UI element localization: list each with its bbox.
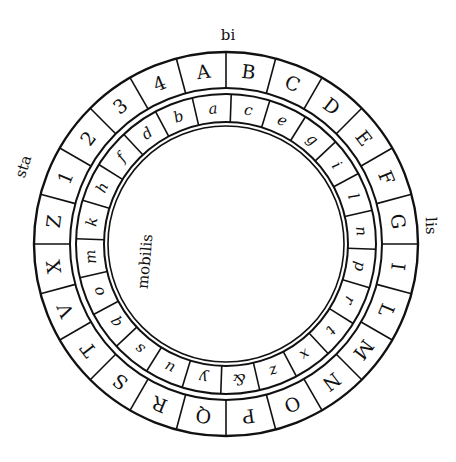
inner-divider [99, 165, 123, 180]
outer-divider [304, 78, 322, 109]
outer-cell-7: I [387, 262, 410, 272]
inner-cell-11: z [267, 361, 282, 381]
inner-cell-7: p [350, 260, 369, 273]
inner-cell-20: h [92, 179, 112, 195]
inner-cell-4: i [328, 158, 346, 173]
outer-divider [377, 194, 412, 203]
outer-cell-8: L [374, 301, 399, 321]
inner-divider [343, 280, 370, 288]
inner-divider [76, 239, 104, 240]
outer-cell-1: B [240, 60, 257, 84]
inner-cell-13: y [197, 368, 210, 387]
inner-ring-mobilis[interactable]: acegilnprtxz&yusqomkhfdb [81, 99, 371, 389]
outer-divider [60, 322, 91, 340]
inner-cell-14: u [161, 358, 177, 378]
inner-divider [348, 248, 376, 249]
outer-divider [377, 284, 412, 293]
outer-cell-13: Q [194, 405, 212, 429]
outer-cell-16: T [75, 338, 100, 362]
outer-cell-9: M [349, 335, 378, 364]
inner-divider [192, 98, 198, 125]
label-mobilis: mobilis [134, 233, 157, 289]
outer-divider [361, 148, 392, 166]
inner-divider [124, 134, 143, 154]
inner-divider [221, 366, 222, 394]
outer-cell-3: D [319, 93, 344, 120]
inner-divider [116, 327, 136, 346]
outer-divider [90, 108, 115, 133]
inner-divider [253, 363, 259, 390]
inner-cell-9: t [321, 322, 339, 339]
outer-cell-4: E [351, 126, 377, 150]
outer-cell-5: F [374, 167, 399, 188]
inner-cell-5: l [344, 191, 363, 202]
outer-divider [41, 284, 76, 293]
inner-cell-3: g [303, 129, 322, 149]
outer-cell-21: 2 [76, 127, 101, 150]
outer-cell-6: G [387, 212, 411, 230]
inner-cell-23: b [171, 106, 186, 126]
inner-cell-18: m [81, 249, 100, 265]
outer-divider [130, 379, 148, 410]
inner-divider [329, 309, 353, 324]
outer-divider [90, 354, 115, 379]
inner-cell-22: d [138, 123, 156, 143]
outer-cell-11: O [281, 392, 304, 418]
inner-divider [80, 271, 107, 277]
label-sta: sta [11, 153, 35, 180]
inner-divider [283, 352, 296, 377]
inner-divider [291, 117, 306, 141]
outer-cell-23: 4 [150, 71, 170, 96]
outer-divider [336, 108, 361, 133]
outer-divider [60, 148, 91, 166]
ring-circle-1 [70, 88, 382, 400]
outer-divider [336, 354, 361, 379]
inner-cell-8: r [340, 293, 360, 308]
outer-cell-14: R [148, 392, 170, 418]
outer-cell-18: X [42, 258, 66, 275]
outer-cell-17: V [52, 300, 78, 322]
inner-divider [147, 347, 162, 371]
inner-cell-1: c [243, 100, 255, 119]
ring-circle-2 [76, 94, 376, 394]
inner-cell-12: & [231, 370, 246, 389]
cipher-wheel: ABCDEFGILMNOPQRSTVXZ1234 acegilnprtxz&yu… [0, 0, 456, 462]
inner-divider [94, 301, 119, 314]
inner-cell-21: f [112, 148, 132, 166]
inner-cell-15: s [131, 339, 149, 358]
inner-divider [83, 200, 110, 208]
inner-divider [315, 142, 335, 161]
outer-cell-15: S [108, 369, 132, 394]
inner-cell-19: k [82, 216, 101, 228]
label-lis: lis [422, 217, 441, 235]
outer-divider [361, 322, 392, 340]
inner-divider [309, 333, 328, 353]
inner-divider [230, 94, 231, 122]
inner-cell-0: a [208, 99, 219, 118]
cell-dividers [34, 52, 418, 436]
outer-cell-10: N [319, 368, 346, 396]
inner-divider [182, 361, 190, 388]
outer-divider [130, 78, 148, 109]
outer-cell-19: Z [42, 213, 66, 229]
outer-cell-0: A [194, 60, 212, 84]
inner-cell-16: q [105, 314, 125, 332]
inner-divider [334, 174, 359, 187]
inner-divider [156, 112, 169, 137]
inner-divider [345, 210, 372, 216]
outer-cell-20: 1 [53, 168, 78, 188]
outer-divider [41, 194, 76, 203]
outer-divider [176, 395, 185, 430]
label-bi: bi [221, 26, 236, 44]
outer-cell-2: C [282, 70, 304, 96]
inner-divider [262, 101, 270, 128]
outer-divider [266, 395, 275, 430]
outer-cell-12: P [241, 405, 257, 429]
outer-divider [176, 59, 185, 94]
inner-cell-6: n [352, 225, 371, 236]
inner-cell-2: e [275, 110, 291, 130]
outer-divider [266, 59, 275, 94]
outer-divider [304, 379, 322, 410]
outer-cell-22: 3 [109, 94, 132, 119]
inner-cell-17: o [89, 284, 109, 299]
